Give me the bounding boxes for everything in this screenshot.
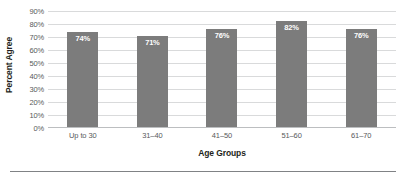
bar-slot: 71% — [118, 11, 188, 127]
x-axis-tick-labels: Up to 3031–4041–5051–6061–70 — [48, 131, 396, 140]
x-tick-label: 51–60 — [257, 131, 327, 140]
y-tick-label: 20% — [30, 98, 44, 107]
bar-slot: 74% — [48, 11, 118, 127]
bar-value-label: 74% — [76, 34, 90, 43]
y-axis-tick-labels: 0%10%20%30%40%50%60%70%80%90% — [18, 11, 46, 128]
bar-value-label: 82% — [284, 23, 298, 32]
y-tick-label: 10% — [30, 111, 44, 120]
plot-area: 74%71%76%82%76% — [48, 11, 396, 128]
y-tick-label: 90% — [30, 7, 44, 16]
x-axis-title: Age Groups — [48, 148, 396, 158]
y-tick-label: 30% — [30, 84, 44, 93]
y-tick-label: 60% — [30, 45, 44, 54]
bar[interactable]: 71% — [137, 36, 168, 128]
y-tick-label: 40% — [30, 72, 44, 81]
x-tick-label: 41–50 — [187, 131, 257, 140]
bar[interactable]: 76% — [206, 29, 237, 127]
x-tick-label: 61–70 — [326, 131, 396, 140]
bar-slot: 82% — [257, 11, 327, 127]
bar-series: 74%71%76%82%76% — [48, 11, 396, 127]
y-axis-title-text: Percent Agree — [4, 37, 14, 93]
x-axis-line — [48, 127, 396, 128]
bar[interactable]: 82% — [276, 21, 307, 127]
bar-value-label: 76% — [215, 31, 229, 40]
bar-slot: 76% — [187, 11, 257, 127]
bar-value-label: 76% — [354, 31, 368, 40]
bar-slot: 76% — [326, 11, 396, 127]
x-tick-label: 31–40 — [118, 131, 188, 140]
x-tick-label: Up to 30 — [48, 131, 118, 140]
y-tick-label: 70% — [30, 33, 44, 42]
bottom-divider — [10, 171, 396, 172]
y-tick-label: 0% — [34, 124, 44, 133]
y-axis-title: Percent Agree — [0, 0, 18, 130]
bar[interactable]: 74% — [67, 32, 98, 127]
bar-value-label: 71% — [145, 38, 159, 47]
bar[interactable]: 76% — [346, 29, 377, 127]
y-tick-label: 80% — [30, 20, 44, 29]
bar-chart-figure: Percent Agree 0%10%20%30%40%50%60%70%80%… — [0, 0, 405, 179]
y-tick-label: 50% — [30, 59, 44, 68]
